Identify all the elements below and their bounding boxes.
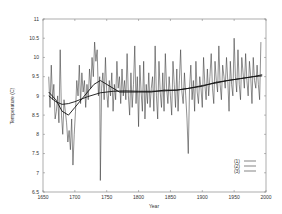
x-tick-label: 1800 (133, 194, 144, 200)
y-tick-label: 7 (36, 170, 39, 176)
y-tick-label: 10 (33, 54, 39, 60)
series-line-1 (49, 38, 261, 180)
y-tick-label: 11 (34, 16, 39, 22)
y-tick-label: 7.5 (32, 150, 39, 156)
y-tick-label: 9.5 (32, 73, 39, 79)
x-axis-title: Year (149, 203, 159, 209)
temperature-chart: 6.577.588.599.51010.511 1650170017501800… (0, 0, 282, 214)
x-tick-label: 1700 (69, 194, 80, 200)
y-tick-label: 8 (36, 131, 39, 137)
x-tick-label: 1900 (197, 194, 208, 200)
x-tick-label: 1750 (101, 194, 112, 200)
x-tick-label: 1950 (229, 194, 240, 200)
legend-label: (3) (234, 168, 240, 174)
series-group (49, 38, 262, 180)
x-tick-label: 1850 (165, 194, 176, 200)
legend: (1)(2)(3) (234, 158, 256, 174)
x-tick-label: 2000 (260, 194, 271, 200)
x-tick-label: 1650 (37, 194, 48, 200)
y-tick-label: 10.5 (29, 35, 39, 41)
y-tick-label: 9 (36, 93, 39, 99)
y-tick-label: 8.5 (32, 112, 39, 118)
y-axis-title: Temperature (C) (9, 87, 15, 124)
